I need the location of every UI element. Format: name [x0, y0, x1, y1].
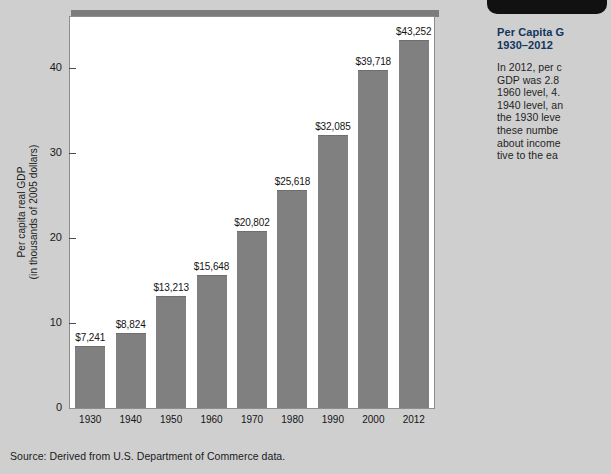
sidebar-body-line: the 1930 leve [497, 111, 611, 124]
bar-rect [197, 275, 227, 408]
sidebar-callout: Per Capita G 1930–2012 In 2012, per cGDP… [497, 26, 611, 162]
sidebar-title-line-2: 1930–2012 [497, 39, 553, 51]
bar-column: $25,618 [277, 17, 307, 408]
bar-rect [156, 296, 186, 408]
bar-column: $7,241 [75, 17, 105, 408]
bar-column: $20,802 [237, 17, 267, 408]
bar-value-label: $32,085 [315, 121, 350, 132]
x-axis-tick-label: 2000 [351, 414, 395, 425]
bar-value-label: $15,648 [194, 261, 229, 272]
x-axis-tick-label: 1980 [270, 414, 314, 425]
bar-rect [399, 40, 429, 408]
bar-rect [116, 333, 146, 408]
bar-rect [277, 190, 307, 408]
sidebar-title: Per Capita G 1930–2012 [497, 26, 611, 52]
source-note: Source: Derived from U.S. Department of … [10, 450, 285, 462]
bar-value-label: $20,802 [234, 217, 269, 228]
bar-value-label: $39,718 [356, 56, 391, 67]
bar-rect [358, 70, 388, 408]
bar-rect [318, 135, 348, 408]
y-axis-tick-label: 30 [36, 146, 62, 158]
sidebar-title-line-1: Per Capita G [497, 26, 564, 38]
bar-value-label: $7,241 [75, 332, 105, 343]
x-axis-tick-label: 1960 [190, 414, 234, 425]
x-axis-tick-label: 1930 [68, 414, 112, 425]
bar-column: $39,718 [358, 17, 388, 408]
bar-column: $15,648 [197, 17, 227, 408]
x-axis-tick-label: 2012 [392, 414, 436, 425]
bar-value-label: $43,252 [396, 26, 431, 37]
y-axis-tick-label: 10 [36, 316, 62, 328]
sidebar-body-line: 1940 level, an [497, 99, 611, 112]
sidebar-body-line: these numbe [497, 124, 611, 137]
y-axis-tick-label: 40 [36, 61, 62, 73]
bar-rect [75, 346, 105, 408]
sidebar-body-line: In 2012, per c [497, 61, 611, 74]
x-axis-tick-label: 1970 [230, 414, 274, 425]
bar-column: $43,252 [399, 17, 429, 408]
sidebar-body-line: GDP was 2.8 [497, 74, 611, 87]
y-axis-tick-label: 20 [36, 231, 62, 243]
x-axis-tick-label: 1990 [311, 414, 355, 425]
bar-column: $8,824 [116, 17, 146, 408]
bar-rect [237, 231, 267, 408]
sidebar-body-text: In 2012, per cGDP was 2.81960 level, 4.1… [497, 61, 611, 162]
sidebar-body-line: tive to the ea [497, 149, 611, 162]
bar-value-label: $8,824 [116, 319, 146, 330]
bar-series: $7,241$8,824$13,213$15,648$20,802$25,618… [70, 17, 434, 408]
y-axis-title: Per capita real GDP (in thousands of 200… [16, 102, 40, 322]
header-tab-decoration [487, 0, 607, 14]
bar-column: $13,213 [156, 17, 186, 408]
sidebar-body-line: 1960 level, 4. [497, 86, 611, 99]
sidebar-body-line: about income [497, 137, 611, 150]
x-axis-tick-label: 1940 [109, 414, 153, 425]
y-axis-tick-label: 0 [36, 401, 62, 413]
bar-column: $32,085 [318, 17, 348, 408]
y-axis-title-line-2: (in thousands of 2005 dollars) [28, 145, 39, 280]
x-axis-tick-label: 1950 [149, 414, 193, 425]
y-axis-title-line-1: Per capita real GDP [16, 167, 27, 258]
chart-figure: Per capita real GDP (in thousands of 200… [0, 0, 454, 430]
bar-value-label: $25,618 [275, 176, 310, 187]
bar-value-label: $13,213 [153, 282, 188, 293]
